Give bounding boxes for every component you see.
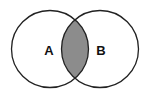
set-b-label: B [96, 43, 105, 58]
set-a-label: A [44, 43, 54, 58]
venn-svg: A B [0, 0, 147, 97]
venn-diagram: A B [0, 0, 147, 97]
